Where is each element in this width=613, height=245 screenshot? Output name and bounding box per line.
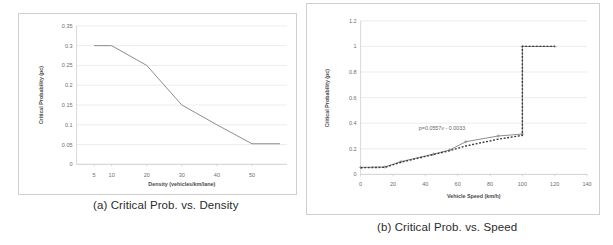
x-tick-label: 80 — [487, 181, 493, 187]
x-tick-label: 40 — [214, 172, 220, 178]
series-group-b — [359, 45, 556, 169]
tick-label-group-b: 00.20.40.60.811.2020406080100120140 — [349, 18, 592, 187]
y-tick-label: 0.2 — [65, 82, 73, 88]
y-tick-label: 0 — [354, 171, 357, 177]
y-tick-label: 0.4 — [349, 120, 357, 126]
y-tick-label: 0.25 — [62, 62, 73, 68]
x-tick-label: 0 — [359, 181, 362, 187]
y-tick-label: 0 — [70, 161, 73, 167]
series-polyline-critical-probability — [94, 46, 280, 144]
annotation-group-b: p=0.0557v - 0.0033 — [419, 125, 465, 131]
chart-panel-density: 00.050.10.150.20.250.30.3551020304050 Cr… — [18, 13, 297, 195]
x-tick-label: 60 — [455, 181, 461, 187]
grid-group-b — [361, 21, 587, 175]
axis-group-a — [77, 26, 287, 166]
x-tick-label: 10 — [109, 172, 115, 178]
x-tick-label: 30 — [179, 172, 185, 178]
y-tick-label: 0.15 — [62, 102, 73, 108]
chart-svg-speed: 00.20.40.60.811.2020406080100120140 p=0.… — [307, 4, 599, 214]
series-polyline-fitted-trend — [361, 46, 555, 167]
y-tick-label: 0.2 — [349, 146, 357, 152]
x-tick-label: 20 — [390, 181, 396, 187]
x-tick-label: 5 — [93, 172, 96, 178]
x-tick-label: 140 — [582, 181, 591, 187]
chart-svg-density: 00.050.10.150.20.250.30.3551020304050 Cr… — [19, 14, 296, 194]
y-axis-title-density: Critical Probability (pc) — [38, 66, 44, 125]
figure-container: 00.050.10.150.20.250.30.3551020304050 Cr… — [0, 0, 613, 245]
x-axis-title-density: Density (vehicles/km/lane) — [148, 181, 215, 187]
x-tick-label: 20 — [144, 172, 150, 178]
equation-annotation: p=0.0557v - 0.0033 — [419, 125, 465, 131]
x-tick-label: 50 — [249, 172, 255, 178]
chart-panel-speed: 00.20.40.60.811.2020406080100120140 p=0.… — [306, 3, 600, 215]
x-axis-title-speed: Vehicle Speed (km/h) — [447, 193, 501, 199]
y-tick-label: 0.1 — [65, 122, 73, 128]
x-tick-label: 120 — [550, 181, 559, 187]
subfigure-caption-a: (a) Critical Prob. vs. Density — [93, 199, 239, 211]
series-polyline-observed — [361, 46, 555, 167]
subfigure-caption-b: (b) Critical Prob. vs. Speed — [377, 221, 517, 233]
y-tick-label: 0.35 — [62, 23, 73, 29]
x-tick-label: 100 — [518, 181, 527, 187]
y-tick-label: 0.3 — [65, 43, 73, 49]
y-axis-title-speed: Critical Probability (pc) — [324, 69, 330, 128]
y-tick-label: 0.8 — [349, 69, 357, 75]
x-tick-label: 40 — [422, 181, 428, 187]
y-tick-label: 0.05 — [62, 142, 73, 148]
y-tick-label: 0.6 — [349, 95, 357, 101]
y-tick-label: 1 — [354, 43, 357, 49]
series-group-a — [94, 46, 280, 144]
axis-group-b — [361, 21, 587, 177]
tick-label-group-a: 00.050.10.150.20.250.30.3551020304050 — [62, 23, 255, 178]
y-tick-label: 1.2 — [349, 18, 357, 24]
